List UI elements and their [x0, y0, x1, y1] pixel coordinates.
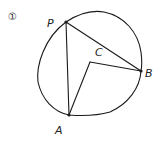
segment-pa [66, 22, 69, 115]
segment-ca [69, 62, 90, 115]
label-p: P [47, 17, 54, 30]
point-p-dot [64, 20, 67, 23]
problem-number: ① [8, 11, 17, 22]
geometry-diagram: ① P C B A [0, 0, 161, 142]
label-c: C [95, 46, 103, 59]
point-b-dot [139, 69, 142, 72]
label-b: B [145, 67, 153, 80]
label-a: A [54, 124, 63, 137]
point-a-dot [67, 113, 70, 116]
segment-pb [66, 22, 141, 71]
